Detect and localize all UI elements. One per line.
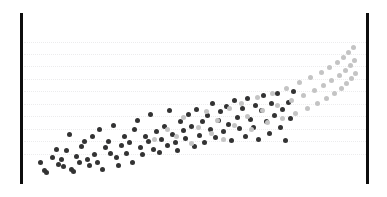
data-point <box>92 152 97 157</box>
right-axis-bar <box>366 13 369 184</box>
data-point <box>324 96 329 101</box>
data-point <box>332 91 337 96</box>
data-point <box>335 60 340 65</box>
data-point <box>196 125 201 130</box>
gridline <box>24 129 366 130</box>
data-point <box>240 106 245 111</box>
data-point <box>148 112 153 117</box>
data-point <box>261 93 266 98</box>
data-point <box>226 122 231 127</box>
data-point <box>119 143 124 148</box>
data-point <box>215 118 220 123</box>
data-point <box>200 119 205 124</box>
data-point <box>204 109 209 114</box>
data-point <box>209 131 214 136</box>
gridline <box>24 116 366 117</box>
data-point <box>353 71 358 76</box>
data-point <box>245 114 250 119</box>
data-point <box>239 101 244 106</box>
data-point <box>67 132 72 137</box>
data-point <box>170 132 175 137</box>
data-point <box>229 138 234 143</box>
data-point <box>100 167 105 172</box>
data-point <box>245 96 250 101</box>
data-point <box>56 162 61 167</box>
data-point <box>315 101 320 106</box>
data-point <box>197 133 202 138</box>
data-point <box>255 95 260 100</box>
data-point <box>135 118 140 123</box>
data-point <box>71 169 76 174</box>
data-point <box>97 127 102 132</box>
data-point <box>208 127 213 132</box>
data-point <box>321 83 326 88</box>
data-point <box>275 103 280 108</box>
data-point <box>106 139 111 144</box>
data-point <box>235 115 240 120</box>
data-point <box>260 108 265 113</box>
data-point <box>95 160 100 165</box>
gridline <box>24 91 366 92</box>
data-point <box>349 76 354 81</box>
data-point <box>165 143 170 148</box>
data-point <box>237 126 242 131</box>
data-point <box>293 111 298 116</box>
data-point <box>259 108 264 113</box>
data-point <box>251 125 256 130</box>
data-point <box>243 134 248 139</box>
data-point <box>175 148 180 153</box>
data-point <box>289 98 294 103</box>
data-point <box>221 137 226 142</box>
data-point <box>270 91 275 96</box>
data-point <box>151 147 156 152</box>
data-point <box>108 151 113 156</box>
data-point <box>38 160 43 165</box>
data-point <box>339 86 344 91</box>
data-point <box>122 134 127 139</box>
data-point <box>210 101 215 106</box>
gridline <box>24 42 366 43</box>
data-point <box>227 106 232 111</box>
data-point <box>202 140 207 145</box>
data-point <box>312 88 317 93</box>
data-point <box>174 134 179 139</box>
data-point <box>275 91 280 96</box>
data-point <box>138 145 143 150</box>
data-point <box>272 113 277 118</box>
data-point <box>186 112 191 117</box>
data-point <box>267 131 272 136</box>
data-point <box>116 163 121 168</box>
data-point <box>269 101 274 106</box>
data-point <box>291 89 296 94</box>
data-point <box>218 109 223 114</box>
data-point <box>344 81 349 86</box>
data-point <box>183 136 188 141</box>
data-point <box>165 127 170 132</box>
data-point <box>194 107 199 112</box>
data-point <box>146 139 151 144</box>
data-point <box>178 119 183 124</box>
data-point <box>181 115 186 120</box>
data-point <box>283 138 288 143</box>
data-point <box>69 167 74 172</box>
data-point <box>61 164 66 169</box>
data-point <box>132 127 137 132</box>
data-point <box>248 117 253 122</box>
data-point <box>162 124 167 129</box>
data-point <box>256 137 261 142</box>
data-point <box>278 125 283 130</box>
data-point <box>284 86 289 91</box>
data-point <box>213 135 218 140</box>
data-point <box>308 75 313 80</box>
plot-area <box>0 0 387 197</box>
data-point <box>232 98 237 103</box>
data-point <box>154 129 159 134</box>
data-point <box>59 157 64 162</box>
data-point <box>54 147 59 152</box>
data-point <box>167 108 172 113</box>
data-point <box>181 128 186 133</box>
data-point <box>319 70 324 75</box>
gridline <box>24 154 366 155</box>
data-point <box>301 93 306 98</box>
data-point <box>124 151 129 156</box>
